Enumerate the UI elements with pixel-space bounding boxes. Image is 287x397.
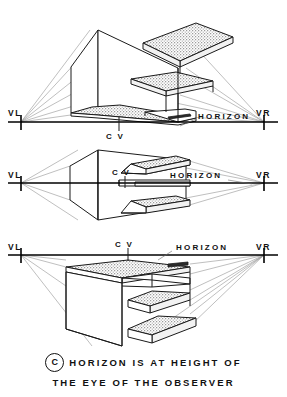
caption-text-1: HORIZON IS AT HEIGHT OF — [69, 357, 241, 368]
label-vr: VR — [256, 170, 271, 180]
figure-caption: C HORIZON IS AT HEIGHT OF THE EYE OF THE… — [0, 352, 287, 392]
slab-setback — [122, 274, 190, 293]
label-vl: VL — [8, 242, 22, 252]
panel-horizon-below-building: VL VR C V HORIZON — [0, 0, 287, 142]
label-vl: VL — [8, 108, 22, 118]
slab-middle — [128, 291, 190, 313]
panel-horizon-above-building: VL VR C V HORIZON — [0, 234, 287, 352]
label-cv: C V — [115, 240, 134, 249]
building-mass — [66, 272, 122, 346]
label-cv: C V — [106, 132, 125, 141]
label-horizon: HORIZON — [198, 112, 250, 121]
label-vl: VL — [8, 170, 22, 180]
label-cv: C V — [112, 168, 131, 177]
slab-lower — [128, 316, 196, 343]
label-vr: VR — [256, 242, 271, 252]
horizon-line-group — [8, 248, 278, 263]
vanishing-rays-left — [21, 150, 78, 220]
label-vr: VR — [256, 108, 271, 118]
figure-sheet: VL VR C V HORIZON — [0, 0, 287, 397]
panel-horizon-through-building: VL VR C V HORIZON — [0, 142, 287, 234]
label-horizon: HORIZON — [176, 243, 228, 252]
caption-line-1: C HORIZON IS AT HEIGHT OF — [0, 352, 287, 372]
caption-text-2: THE EYE OF THE OBSERVER — [52, 377, 234, 388]
caption-line-2: THE EYE OF THE OBSERVER — [0, 372, 287, 392]
caption-badge-c: C — [45, 353, 64, 372]
label-horizon: HORIZON — [170, 171, 222, 180]
